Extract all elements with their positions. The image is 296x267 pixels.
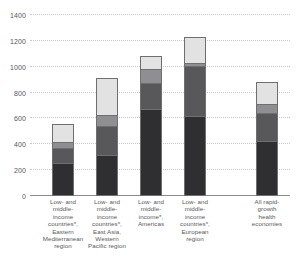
bar-segment[interactable] — [257, 83, 277, 105]
bar-segment[interactable] — [257, 105, 277, 113]
y-axis-tick-label: 400 — [14, 141, 26, 148]
y-axis-tick-label: 200 — [14, 167, 26, 174]
bar-segment[interactable] — [257, 142, 277, 195]
bar-segment[interactable] — [141, 57, 161, 69]
bar-column[interactable] — [256, 82, 278, 196]
y-axis-tick-label: 1000 — [10, 63, 26, 70]
y-axis-tick-label: 1200 — [10, 37, 26, 44]
y-axis-tick-label: 1400 — [10, 12, 26, 19]
y-axis-tick-label: 600 — [14, 115, 26, 122]
bar-column[interactable] — [184, 37, 206, 196]
bar-segment[interactable] — [53, 149, 73, 164]
bar-segment[interactable] — [53, 164, 73, 195]
bar-segment[interactable] — [97, 79, 117, 115]
bar-segment[interactable] — [141, 110, 161, 195]
bar-segment[interactable] — [141, 70, 161, 84]
x-axis-labels: Low- and middle- income countries*, East… — [30, 198, 290, 266]
y-axis-tick-label: 0 — [22, 193, 26, 200]
bar-segment[interactable] — [185, 117, 205, 196]
bars-layer — [30, 15, 290, 196]
bar-segment[interactable] — [257, 114, 277, 142]
bar-segment[interactable] — [185, 67, 205, 116]
bar-column[interactable] — [96, 78, 118, 196]
bar-segment[interactable] — [53, 125, 73, 143]
stacked-bar-chart: 0200400600800100012001400 Low- and middl… — [0, 0, 296, 267]
bar-segment[interactable] — [97, 156, 117, 195]
plot-area: 0200400600800100012001400 — [30, 15, 290, 196]
x-axis-category-label: Low- and middle- income countries*, Euro… — [169, 198, 221, 242]
bar-column[interactable] — [140, 56, 162, 196]
bar-segment[interactable] — [97, 116, 117, 127]
x-axis-category-label: All rapid- growth health economies — [238, 198, 296, 228]
bar-segment[interactable] — [97, 127, 117, 156]
bar-segment[interactable] — [185, 38, 205, 64]
bar-segment[interactable] — [141, 84, 161, 110]
bar-column[interactable] — [52, 124, 74, 196]
y-axis-tick-label: 800 — [14, 89, 26, 96]
